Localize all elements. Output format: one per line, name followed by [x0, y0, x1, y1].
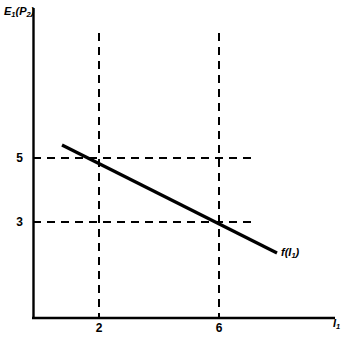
- y-axis-title-close: ): [31, 5, 35, 17]
- y-tick-label-3: 3: [9, 216, 23, 228]
- y-axis-title-mid: (P: [16, 5, 27, 17]
- x-axis-title: I1: [333, 318, 340, 329]
- y-axis-title-sub1: 1: [11, 10, 15, 19]
- chart-figure: E1(P2) I1 f(I1) 5 3 2 6: [0, 0, 354, 338]
- y-axis-title-sub2: 2: [27, 10, 31, 19]
- x-axis-title-sub: 1: [336, 322, 340, 331]
- function-curve-label-base: f(I: [281, 246, 291, 258]
- function-curve-label: f(I1): [281, 247, 299, 258]
- function-line: [62, 145, 277, 253]
- x-tick-label-2: 2: [91, 322, 107, 334]
- y-tick-label-5: 5: [9, 152, 23, 164]
- function-curve-label-sub: 1: [291, 251, 295, 260]
- y-axis-title: E1(P2): [4, 6, 34, 17]
- plot-area: [0, 0, 354, 338]
- function-curve-label-close: ): [296, 246, 300, 258]
- x-tick-label-6: 6: [211, 322, 227, 334]
